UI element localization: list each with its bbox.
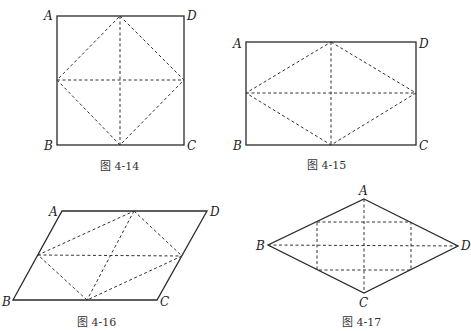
vertex-label-d: D [460,239,471,253]
vertex-label-c: C [419,139,428,153]
vertex-label-a: A [43,9,53,23]
vertex-label-d: D [209,205,220,219]
figure-caption: 图 4-16 [77,316,116,329]
vertex-label-d: D [186,9,197,23]
vertex-label-d: D [418,37,429,51]
vertex-label-c: C [160,295,169,309]
figures-canvas: A D B C 图 4-14 A D B C 图 4-15 A D B C 图 … [0,0,471,331]
figure-4-17: A B D C 图 4-17 [255,184,471,329]
vertex-label-a: A [48,205,58,219]
vertex-label-b: B [1,295,11,309]
diagonal-bd [268,245,458,246]
vertex-label-b: B [43,139,53,153]
figure-4-14: A D B C 图 4-14 [43,9,197,173]
vertex-label-a: A [358,184,368,198]
vertex-label-a: A [232,37,242,51]
figure-caption: 图 4-15 [307,159,346,172]
vertex-label-b: B [232,139,242,153]
midline-2 [38,255,182,256]
vertex-label-c: C [187,139,196,153]
figure-caption: 图 4-17 [342,316,381,329]
vertex-label-b: B [255,239,265,253]
vertex-label-c: C [359,296,368,310]
figure-caption: 图 4-14 [100,160,139,173]
figure-4-16: A D B C 图 4-16 [1,205,220,329]
figure-4-15: A D B C 图 4-15 [232,37,429,172]
